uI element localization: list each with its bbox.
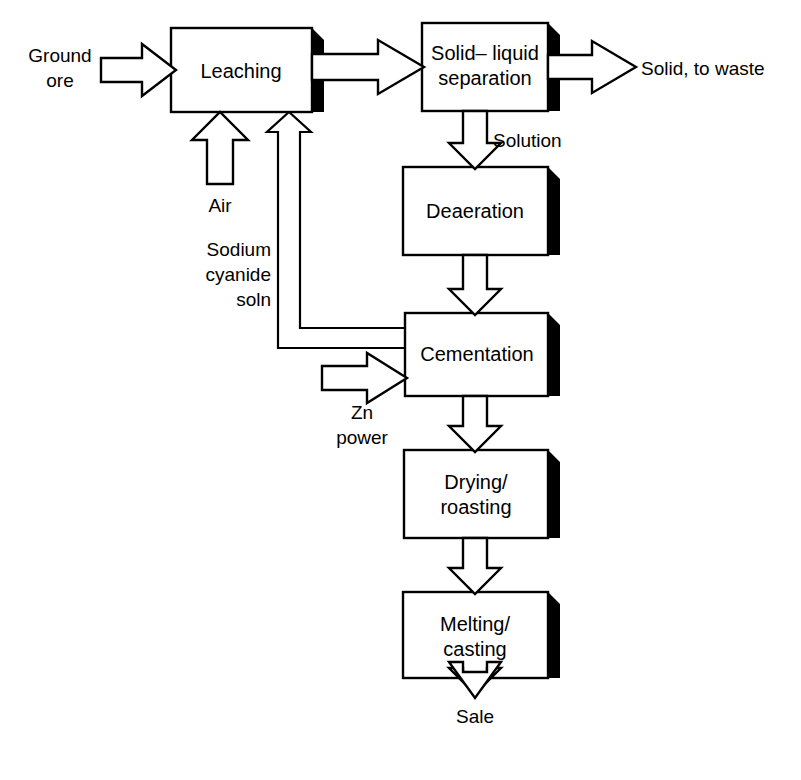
arrow-air-to-leaching — [192, 112, 248, 184]
arrow-cementation-to-drying — [449, 396, 501, 452]
label-separation-line2: separation — [438, 67, 531, 89]
label-solid-to-waste: Solid, to waste — [641, 58, 765, 79]
label-ground-ore: Ground — [28, 45, 91, 66]
label-zn-power: Zn — [351, 402, 373, 423]
label-air: Air — [208, 195, 232, 216]
arrow-separation-to-waste — [548, 41, 636, 93]
diagram-canvas: Leaching Solid– liquid separation Deaera… — [0, 0, 801, 780]
label-melting-line2: casting — [443, 638, 506, 660]
label-sale: Sale — [456, 706, 494, 727]
recycle-outline — [267, 112, 405, 348]
box-drying — [404, 450, 548, 538]
label-drying-line2: roasting — [440, 496, 511, 518]
box-melting — [403, 592, 548, 678]
flow-cementation-recycle — [267, 112, 405, 348]
label-solution: Solution — [493, 130, 562, 151]
label-ground-ore-line2: ore — [46, 70, 73, 91]
arrow-deaeration-to-cementation — [449, 255, 501, 315]
label-cementation: Cementation — [420, 343, 533, 365]
label-sodium-cyanide-line2: cyanide — [206, 264, 272, 285]
label-drying: Drying/ — [444, 471, 508, 493]
label-separation: Solid– liquid — [431, 42, 539, 64]
process-flow-diagram: Leaching Solid– liquid separation Deaera… — [0, 0, 801, 780]
arrow-ore-to-leaching — [101, 44, 176, 96]
arrow-drying-to-melting — [449, 538, 501, 594]
label-sodium-cyanide-line3: soln — [236, 289, 271, 310]
label-sodium-cyanide: Sodium — [207, 239, 271, 260]
arrow-zn-to-cementation — [322, 353, 407, 403]
label-zn-power-line2: power — [336, 427, 388, 448]
label-melting: Melting/ — [440, 613, 510, 635]
label-deaeration: Deaeration — [426, 200, 524, 222]
arrow-leaching-to-separation — [312, 40, 424, 94]
label-leaching: Leaching — [200, 60, 281, 82]
